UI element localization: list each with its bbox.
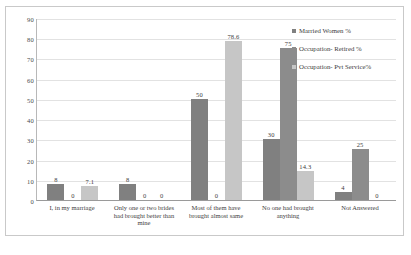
legend-label: Married Women % xyxy=(299,27,351,34)
bar-group: 50078.6 xyxy=(181,19,253,200)
legend-item[interactable]: Occupation- Retired % xyxy=(292,45,397,52)
bar-slot: 78.6 xyxy=(225,19,242,200)
bar-slot: 0 xyxy=(208,19,225,200)
bar[interactable]: 30 xyxy=(263,139,280,200)
bar[interactable]: 14.3 xyxy=(297,171,314,200)
bar-value-label: 0 xyxy=(143,192,146,199)
bar-slot: 0 xyxy=(136,19,153,200)
legend-label: Occupation- Pvt Service% xyxy=(299,63,371,70)
bar-slot: 0 xyxy=(64,19,81,200)
bar-value-label: 0 xyxy=(71,192,74,199)
bar-group: 800 xyxy=(109,19,181,200)
legend-swatch-icon xyxy=(292,47,296,51)
legend-item[interactable]: Married Women % xyxy=(292,27,397,34)
bar-slot: 8 xyxy=(119,19,136,200)
x-axis-label: Most of them have brought almost same xyxy=(180,204,252,227)
bar-value-label: 50 xyxy=(196,91,203,98)
bar-value-label: 8 xyxy=(54,176,57,183)
legend-swatch-icon xyxy=(292,29,296,33)
bar-slot: 50 xyxy=(191,19,208,200)
y-axis-tick-70: 70 xyxy=(12,56,34,63)
bar-group: 807.1 xyxy=(37,19,109,200)
bar[interactable]: 50 xyxy=(191,99,208,200)
bar-slot: 8 xyxy=(47,19,64,200)
bar-value-label: 0 xyxy=(375,192,378,199)
bar-value-label: 0 xyxy=(215,192,218,199)
y-axis-tick-30: 30 xyxy=(12,137,34,144)
x-axis-label: I, in my marriage xyxy=(36,204,108,227)
bar-value-label: 30 xyxy=(268,131,275,138)
bar[interactable]: 78.6 xyxy=(225,41,242,200)
bar-value-label: 25 xyxy=(357,141,364,148)
chart-legend: Married Women %Occupation- Retired %Occu… xyxy=(292,27,397,81)
bar-value-label: 7.1 xyxy=(86,178,95,185)
y-axis-tick-20: 20 xyxy=(12,157,34,164)
x-axis-label: No one had brought anything xyxy=(252,204,324,227)
bar-value-label: 8 xyxy=(126,176,129,183)
chart-plot-wrapper: 0102030405060708090 807.180050078.630751… xyxy=(6,7,403,235)
legend-label: Occupation- Retired % xyxy=(299,45,362,52)
y-axis-tick-80: 80 xyxy=(12,36,34,43)
y-axis: 0102030405060708090 xyxy=(12,19,34,201)
bar-value-label: 0 xyxy=(160,192,163,199)
y-axis-tick-10: 10 xyxy=(12,177,34,184)
bar-value-label: 4 xyxy=(341,184,344,191)
x-axis-label: Not Answered xyxy=(324,204,396,227)
bar-value-label: 14.3 xyxy=(299,163,311,170)
bar-slot: 0 xyxy=(153,19,170,200)
bar[interactable]: 25 xyxy=(352,149,369,200)
bar[interactable]: 8 xyxy=(47,184,64,200)
y-axis-tick-50: 50 xyxy=(12,96,34,103)
y-axis-tick-90: 90 xyxy=(12,16,34,23)
bar[interactable]: 8 xyxy=(119,184,136,200)
y-axis-tick-40: 40 xyxy=(12,117,34,124)
chart-card: 0102030405060708090 807.180050078.630751… xyxy=(5,6,404,236)
y-axis-tick-0: 0 xyxy=(12,198,34,205)
bar-value-label: 78.6 xyxy=(227,33,239,40)
x-axis-label: Only one or two brides had brought bette… xyxy=(108,204,180,227)
y-axis-tick-60: 60 xyxy=(12,76,34,83)
bar-value-label: 75 xyxy=(285,40,292,47)
bar-slot: 7.1 xyxy=(81,19,98,200)
bar[interactable]: 7.1 xyxy=(81,186,98,200)
bar-slot: 30 xyxy=(263,19,280,200)
legend-item[interactable]: Occupation- Pvt Service% xyxy=(292,63,397,70)
bar[interactable]: 4 xyxy=(335,192,352,200)
legend-swatch-icon xyxy=(292,65,296,69)
x-axis: I, in my marriageOnly one or two brides … xyxy=(36,204,396,227)
